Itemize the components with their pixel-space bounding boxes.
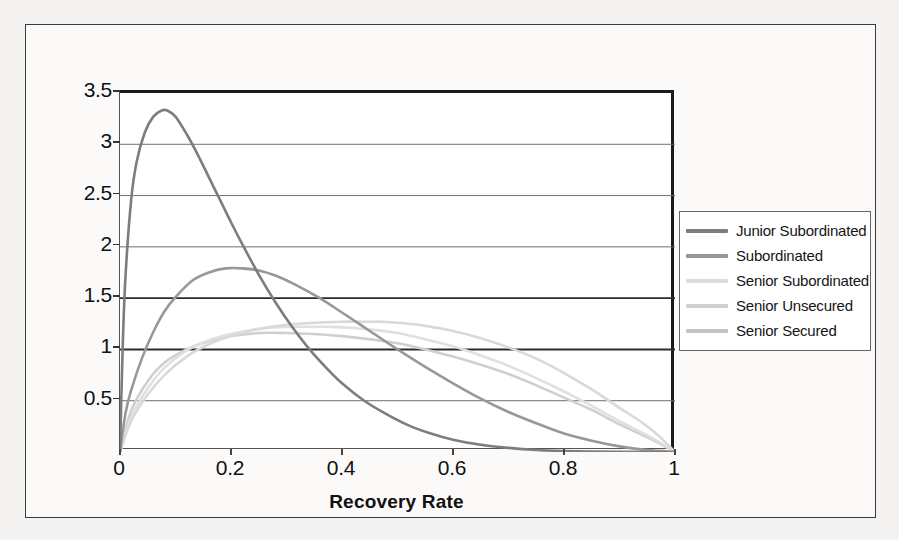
x-axis-tick-labels: 00.20.40.60.81 [26,457,899,487]
x-tick-mark [563,449,565,455]
x-axis-title: Recovery Rate [119,491,674,513]
y-tick-label: 0.5 [56,387,112,408]
legend-swatch-icon [686,229,728,233]
legend-item-label: Senior Unsecured [736,297,853,314]
legend-swatch-icon [686,304,728,308]
y-tick-mark [113,295,120,297]
x-tick-label: 0.8 [549,457,577,478]
legend-item-label: Junior Subordinated [736,222,866,239]
gridlines [120,144,675,400]
x-tick-label: 1 [668,457,679,478]
plot-area [119,90,674,449]
y-tick-mark [113,398,120,400]
legend-item[interactable]: Junior Subordinated [680,218,870,243]
x-tick-label: 0.2 [216,457,244,478]
y-tick-mark [113,244,120,246]
legend-item[interactable]: Senior Subordinated [680,268,870,293]
legend-item-label: Subordinated [736,247,823,264]
x-tick-label: 0.6 [438,457,466,478]
y-tick-mark [113,346,120,348]
y-tick-label: 2 [56,233,112,254]
y-tick-label: 3.5 [56,79,112,100]
x-tick-mark [452,449,454,455]
series-line [120,268,675,452]
legend-item[interactable]: Senior Secured [680,318,870,343]
y-tick-mark [113,193,120,195]
y-tick-mark [113,141,120,143]
figure-page: 0.511.522.533.5 00.20.40.60.81 Recovery … [0,0,899,540]
x-tick-mark [119,449,121,455]
legend-swatch-icon [686,329,728,333]
chart-canvas [120,93,675,452]
x-tick-mark [674,449,676,455]
y-tick-label: 2.5 [56,182,112,203]
chart-legend: Junior SubordinatedSubordinatedSenior Su… [679,211,871,351]
y-tick-mark [113,90,120,92]
legend-item[interactable]: Subordinated [680,243,870,268]
x-tick-label: 0.4 [327,457,355,478]
legend-swatch-icon [686,254,728,258]
figure-frame: 0.511.522.533.5 00.20.40.60.81 Recovery … [25,24,876,518]
x-tick-label: 0 [113,457,124,478]
legend-swatch-icon [686,279,728,283]
y-tick-label: 3 [56,130,112,151]
y-tick-label: 1.5 [56,284,112,305]
x-tick-mark [341,449,343,455]
y-tick-label: 1 [56,335,112,356]
legend-item-label: Senior Subordinated [736,272,869,289]
legend-item-label: Senior Secured [736,322,837,339]
x-tick-mark [230,449,232,455]
legend-item[interactable]: Senior Unsecured [680,293,870,318]
